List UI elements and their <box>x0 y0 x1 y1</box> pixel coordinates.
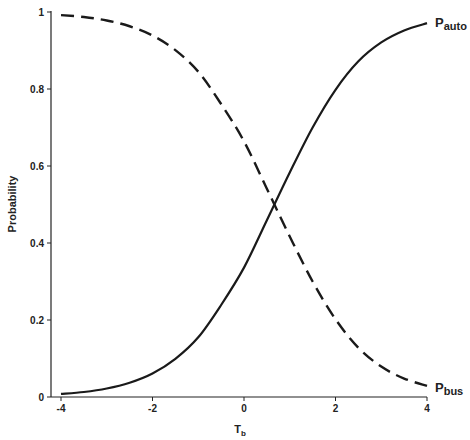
x-tick-label: 2 <box>333 403 339 414</box>
y-axis-label: Probability <box>6 175 18 233</box>
probability-chart: 00.20.40.60.81 -4-2024 PautoPbus Probabi… <box>0 0 470 440</box>
series-label-auto: Pauto <box>435 15 467 32</box>
y-tick-label: 0.8 <box>30 84 44 95</box>
y-tick-label: 0.6 <box>30 161 44 172</box>
x-tick-label: -2 <box>148 403 157 414</box>
series-labels: PautoPbus <box>435 15 467 397</box>
y-tick-label: 1 <box>38 7 44 18</box>
axes: 00.20.40.60.81 -4-2024 <box>30 7 430 414</box>
x-axis-label: Tb <box>234 423 246 438</box>
curve-bus <box>61 15 427 386</box>
y-tick-label: 0 <box>38 392 44 403</box>
x-tick-label: 4 <box>424 403 430 414</box>
y-ticks: 00.20.40.60.81 <box>30 7 51 403</box>
y-tick-label: 0.2 <box>30 315 44 326</box>
x-tick-label: -4 <box>57 403 66 414</box>
y-tick-label: 0.4 <box>30 238 44 249</box>
x-tick-label: 0 <box>241 403 247 414</box>
x-ticks: -4-2024 <box>57 397 431 414</box>
series-label-bus: Pbus <box>435 380 463 397</box>
curve-auto <box>61 23 427 394</box>
curves <box>61 15 427 394</box>
